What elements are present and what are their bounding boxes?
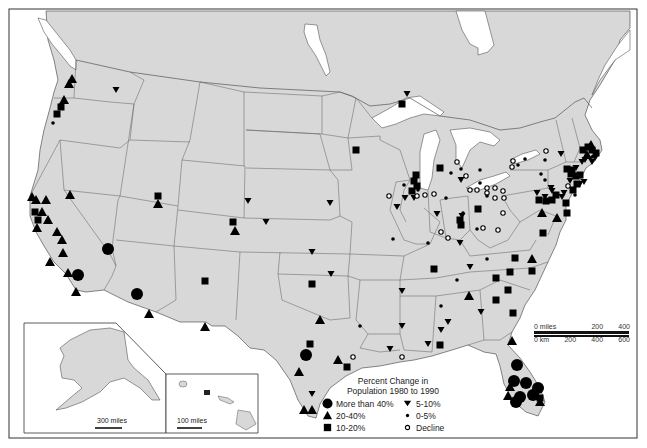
open-circle-marker [387, 194, 391, 198]
open-circle-marker [566, 184, 570, 188]
open-circle-marker [496, 228, 500, 232]
small-dot-marker [444, 196, 448, 200]
small-dot-marker [51, 121, 55, 125]
legend-item-more-than-40: More than 40% [322, 398, 402, 409]
legend-label: More than 40% [336, 399, 394, 409]
square-marker [32, 209, 39, 216]
open-circle-marker [464, 174, 468, 178]
large-circle-icon [322, 398, 333, 409]
legend-item-decline: Decline [402, 422, 472, 433]
square-marker [577, 172, 584, 179]
down-triangle-icon [402, 398, 413, 409]
legend-items: More than 40% 5-10% 20-40% 0-5% 10-20% D… [322, 398, 472, 433]
open-circle-marker [544, 149, 548, 153]
large-circle-marker [532, 382, 544, 394]
square-marker [505, 287, 512, 294]
square-marker [202, 278, 209, 285]
square-marker [344, 364, 351, 371]
square-marker [307, 341, 314, 348]
large-circle-marker [102, 243, 114, 255]
square-marker [58, 104, 65, 111]
square-marker [399, 101, 406, 108]
scale-miles-tick: 200 [591, 323, 603, 330]
open-circle-marker [475, 188, 479, 192]
legend: Percent Change in Population 1980 to 199… [322, 376, 472, 433]
small-dot-marker [461, 211, 465, 215]
open-circle-marker [400, 355, 404, 359]
alaska-scale-label: 300 miles [97, 417, 127, 424]
small-dot-marker [543, 178, 547, 182]
small-dot-marker [478, 181, 482, 185]
square-marker [570, 187, 577, 194]
legend-title-line2: Population 1980 to 1990 [314, 386, 472, 396]
small-dot-marker [523, 157, 527, 161]
open-circle-marker [446, 236, 450, 240]
small-dot-marker [485, 257, 489, 261]
open-circle-marker [493, 196, 497, 200]
scale-km-label: 0 km [534, 336, 549, 343]
square-marker [437, 165, 444, 172]
square-marker [536, 197, 543, 204]
square-marker [458, 222, 465, 229]
small-dot-icon [402, 410, 413, 421]
square-marker [543, 198, 550, 205]
square-marker [529, 268, 536, 275]
open-circle-marker [432, 192, 436, 196]
small-dot-marker [455, 278, 459, 282]
small-dot-marker [590, 155, 594, 159]
small-dot-marker [459, 167, 463, 171]
scale-km-row: 0 km 200 400 600 [534, 336, 630, 343]
small-dot-marker [573, 193, 577, 197]
open-circle-icon [402, 422, 413, 433]
square-marker [564, 210, 571, 217]
square-marker [230, 219, 237, 226]
legend-title: Percent Change in Population 1980 to 199… [314, 376, 472, 396]
open-circle-marker [439, 230, 443, 234]
square-marker [35, 217, 42, 224]
square-icon [322, 422, 333, 433]
large-circle-marker [510, 396, 522, 408]
large-circle-marker [300, 349, 312, 361]
open-circle-marker [502, 196, 506, 200]
large-circle-marker [131, 288, 143, 300]
square-marker [431, 266, 438, 273]
legend-label: 20-40% [336, 411, 365, 421]
square-marker [512, 255, 519, 262]
open-circle-marker [501, 189, 505, 193]
scale-bar: 0 miles 200 400 0 km 200 400 600 [534, 323, 630, 343]
scale-km-tick: 600 [618, 336, 630, 343]
legend-item-5-10: 5-10% [402, 398, 472, 409]
legend-item-20-40: 20-40% [322, 410, 402, 421]
open-circle-marker [510, 165, 514, 169]
small-dot-marker [478, 168, 482, 172]
scale-miles-label: 0 miles [534, 323, 556, 330]
small-dot-marker [358, 324, 362, 328]
open-circle-marker [415, 194, 419, 198]
small-dot-marker [539, 172, 543, 176]
square-marker [510, 310, 517, 317]
open-circle-marker [485, 186, 489, 190]
open-circle-marker [511, 159, 515, 163]
square-marker [540, 230, 547, 237]
large-circle-marker [520, 377, 532, 389]
legend-item-0-5: 0-5% [402, 410, 472, 421]
square-marker [563, 200, 570, 207]
small-dot-marker [416, 188, 420, 192]
open-circle-marker [493, 186, 497, 190]
legend-label: 0-5% [416, 411, 436, 421]
small-dot-marker [439, 304, 443, 308]
hawaii-scale-label: 100 miles [177, 417, 207, 424]
square-marker [413, 172, 420, 179]
square-marker [549, 197, 556, 204]
square-marker [493, 275, 500, 282]
small-dot-marker [543, 158, 547, 162]
triangle-icon [322, 410, 333, 421]
large-circle-marker [511, 359, 523, 371]
square-marker [409, 188, 416, 195]
large-circle-marker [72, 269, 84, 281]
square-marker [537, 395, 544, 402]
legend-item-10-20: 10-20% [322, 422, 402, 433]
legend-title-line1: Percent Change in [314, 376, 472, 386]
open-circle-marker [501, 211, 505, 215]
open-circle-marker [468, 188, 472, 192]
